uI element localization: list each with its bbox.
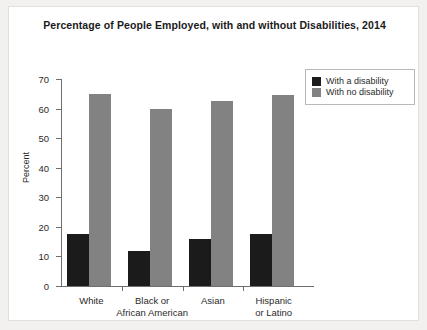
y-axis-tick: 10 <box>56 256 61 257</box>
bar <box>272 95 294 286</box>
y-axis-tick-label: 20 <box>38 221 49 232</box>
bar <box>189 239 211 286</box>
legend-swatch-icon <box>312 77 321 86</box>
y-axis-tick: 70 <box>56 79 61 80</box>
y-axis-tick-label: 0 <box>44 281 49 292</box>
x-axis-category-label: Hispanicor Latino <box>255 295 292 318</box>
x-axis-tick <box>122 286 123 291</box>
y-axis-tick-label: 50 <box>38 133 49 144</box>
x-axis-tick <box>183 286 184 291</box>
y-axis-tick: 30 <box>56 197 61 198</box>
bar <box>89 94 111 286</box>
chart-title: Percentage of People Employed, with and … <box>9 19 420 31</box>
y-axis-tick-label: 60 <box>38 103 49 114</box>
y-axis-tick: 0 <box>56 286 61 287</box>
chart-legend: With a disability With no disability <box>305 69 415 105</box>
y-axis-tick: 60 <box>56 109 61 110</box>
legend-item-label: With a disability <box>326 76 389 86</box>
legend-item-with-a-disability: With a disability <box>312 76 408 86</box>
y-axis-tick-label: 30 <box>38 192 49 203</box>
legend-item-with-no-disability: With no disability <box>312 87 408 97</box>
y-axis-tick: 20 <box>56 227 61 228</box>
plot-area: 010203040506070 <box>61 79 304 286</box>
x-axis-category-label: Black orAfrican American <box>116 295 188 318</box>
y-axis-tick-label: 70 <box>38 74 49 85</box>
bar <box>250 234 272 286</box>
bar <box>128 251 150 286</box>
legend-item-label: With no disability <box>326 87 394 97</box>
x-axis-line <box>61 286 314 287</box>
y-axis-tick-label: 40 <box>38 162 49 173</box>
bar <box>211 101 233 286</box>
x-axis-tick <box>243 286 244 291</box>
x-axis-category-label: Asian <box>201 295 225 307</box>
bar <box>67 234 89 286</box>
y-axis-label: Percent <box>21 152 31 183</box>
legend-swatch-icon <box>312 88 321 97</box>
bar <box>150 109 172 286</box>
chart-figure: Percentage of People Employed, with and … <box>8 6 419 321</box>
y-axis-tick: 50 <box>56 138 61 139</box>
y-axis-tick-label: 10 <box>38 251 49 262</box>
x-axis-category-label: White <box>79 295 103 307</box>
y-axis-tick: 40 <box>56 168 61 169</box>
